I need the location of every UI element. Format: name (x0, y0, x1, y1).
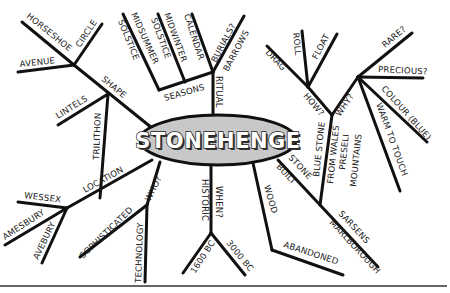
label-float: FLOAT (310, 32, 332, 61)
label-ritual: RITUAL (214, 76, 224, 108)
label-mountains: MOUNTAINS (348, 133, 363, 187)
label-technology: TECHNOLOGY (133, 222, 145, 284)
stonehenge-mind-map: HORSESHOE CIRCLE AVENUE SHAPE LINTELS TR… (0, 0, 450, 293)
label-rare: RARE? (380, 24, 408, 50)
label-sophisticated: SOPHISTICATED (77, 204, 134, 260)
center-node: STONEHENGE STONEHENGE (135, 115, 302, 165)
branch-historic: HISTORIC WHEN? 1600 BC 3000 BC (183, 165, 256, 275)
label-why: WHY? (333, 92, 355, 119)
label-precious: PRECIOUS? (378, 64, 428, 77)
label-trilithon: TRILITHON (91, 112, 103, 161)
label-roll: ROLL (291, 32, 303, 56)
label-seasons: SEASONS (163, 82, 206, 103)
center-title: STONEHENGE (135, 129, 300, 153)
label-who: WHO? (143, 174, 164, 202)
label-historic: HISTORIC (200, 179, 210, 221)
label-when: WHEN? (214, 186, 224, 218)
branch-ritual: SOLSTICE MIDSUMMER SOLSTICE MIDWINTER CA… (116, 11, 251, 115)
label-drag: DRAG (264, 47, 289, 72)
